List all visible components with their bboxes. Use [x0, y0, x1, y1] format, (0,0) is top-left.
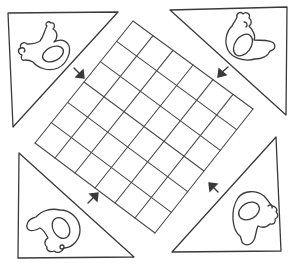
hen-icon	[226, 13, 275, 60]
arrow-up-left-icon	[209, 183, 218, 192]
arrow-down-right-icon	[74, 68, 84, 78]
arrow-up-right-icon	[88, 193, 98, 203]
hen-icon	[233, 192, 278, 245]
game-board: Hen game board	[0, 0, 296, 265]
hen-icon	[18, 22, 69, 70]
arrow-down-left-icon	[218, 67, 228, 77]
play-grid[interactable]	[35, 21, 253, 233]
hen-icon	[27, 209, 80, 252]
